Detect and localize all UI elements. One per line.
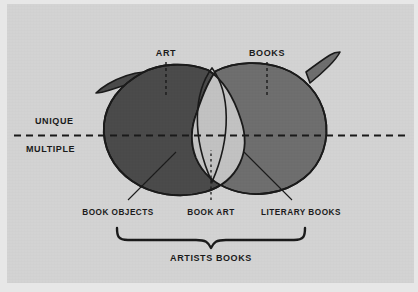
set-label-books: BOOKS — [249, 48, 285, 58]
axis-label-multiple: MULTIPLE — [26, 144, 75, 154]
region-label-book-art: BOOK ART — [187, 208, 234, 217]
region-label-literary-books: LITERARY BOOKS — [261, 208, 341, 217]
artists-books-brace — [117, 228, 305, 248]
venn-diagram: UNIQUE MULTIPLE ART BOOKS BOOK OBJECTS B… — [0, 0, 418, 292]
venn-shapes — [96, 52, 340, 195]
axis-label-unique: UNIQUE — [35, 116, 74, 126]
region-label-book-objects: BOOK OBJECTS — [82, 208, 154, 217]
books-stem — [306, 52, 340, 83]
figure-canvas: UNIQUE MULTIPLE ART BOOKS BOOK OBJECTS B… — [0, 0, 418, 292]
set-label-art: ART — [156, 48, 176, 58]
brace-label-artists-books: ARTISTS BOOKS — [170, 253, 252, 263]
